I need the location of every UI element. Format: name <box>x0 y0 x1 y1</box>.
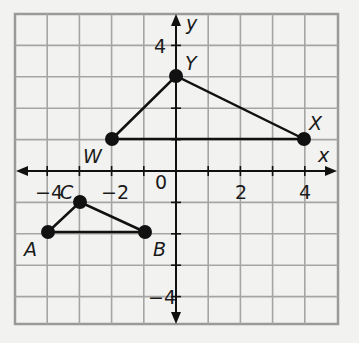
point-w <box>105 132 119 146</box>
y-axis-down-arrow-icon <box>171 312 181 324</box>
x-tick-label-neg4: −4 <box>35 181 63 203</box>
point-x <box>297 132 311 146</box>
origin-label: 0 <box>155 171 167 193</box>
label-b: B <box>153 238 166 260</box>
label-w: W <box>83 145 103 167</box>
coordinate-plane: y x −4 −2 2 4 4 −4 0 W Y X A C B <box>0 0 359 343</box>
point-y <box>169 69 183 83</box>
point-a <box>41 225 55 239</box>
y-tick-label-neg4: −4 <box>148 286 176 308</box>
point-b <box>138 225 152 239</box>
triangle-wyx: W Y X <box>83 52 323 167</box>
y-axis <box>171 14 181 324</box>
point-c <box>73 195 87 209</box>
y-axis-label: y <box>185 12 198 34</box>
x-tick-label-neg2: −2 <box>101 181 129 203</box>
label-x: X <box>308 112 323 134</box>
y-tick-label-4: 4 <box>154 35 166 57</box>
x-tick-label-4: 4 <box>299 181 311 203</box>
label-y: Y <box>185 52 198 74</box>
y-axis-up-arrow-icon <box>171 14 181 26</box>
x-axis-label: x <box>317 144 330 166</box>
label-c: C <box>60 181 74 203</box>
label-a: A <box>22 238 37 260</box>
x-tick-label-2: 2 <box>235 181 247 203</box>
x-axis-right-arrow-icon <box>325 166 337 176</box>
x-axis-left-arrow-icon <box>16 166 28 176</box>
